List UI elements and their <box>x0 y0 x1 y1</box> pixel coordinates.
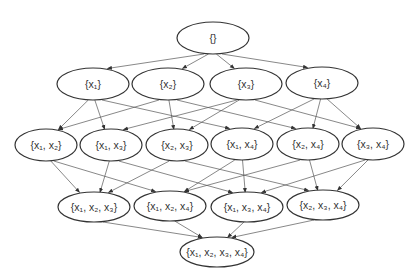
edge-234-to-1234 <box>232 220 314 238</box>
edge-1-to-14 <box>102 100 230 129</box>
edge-e-to-3 <box>216 54 234 69</box>
node-label: {x₂, x₄} <box>292 138 324 150</box>
node-label: {x₁, x₃, x₄} <box>224 201 271 213</box>
hasse-diagram: {}{x₁}{x₂}{x₃}{x₄}{x₁, x₂}{x₁, x₃}{x₂, x… <box>0 0 417 278</box>
node-set-2: {x₂} <box>132 68 204 100</box>
node-label: {x₃, x₄} <box>357 138 389 150</box>
node-label: {x₁, x₄} <box>226 138 258 150</box>
edge-1-to-13 <box>95 100 105 130</box>
edge-23-to-123 <box>108 161 169 193</box>
node-label: {x₁, x₂, x₃, x₄} <box>186 246 248 258</box>
node-set-12: {x₁, x₂} <box>15 129 77 161</box>
node-label: {x₁, x₂} <box>31 139 62 151</box>
node-set-14: {x₁, x₄} <box>211 128 273 160</box>
edge-13-to-123 <box>100 161 109 193</box>
node-label: {x₄} <box>314 77 331 89</box>
edge-14-to-124 <box>184 160 234 192</box>
node-set-123: {x₁, x₂, x₃} <box>58 192 130 222</box>
node-set-34: {x₃, x₄} <box>342 128 404 160</box>
edge-e-to-1 <box>107 54 204 69</box>
edge-4-to-24 <box>313 99 321 129</box>
node-label: {x₃} <box>238 78 255 90</box>
node-label: {x₁, x₂, x₃} <box>71 201 118 213</box>
edge-13-to-134 <box>119 161 233 193</box>
node-label: {x₂, x₃, x₄} <box>299 199 347 211</box>
node-set-234: {x₂, x₃, x₄} <box>287 190 359 220</box>
node-label: {} <box>209 32 217 44</box>
node-set-23: {x₂, x₃} <box>146 129 208 161</box>
node-set-134: {x₁, x₃, x₄} <box>211 192 283 222</box>
edge-e-to-2 <box>182 54 208 69</box>
edge-12-to-123 <box>51 161 80 193</box>
node-set-1: {x₁} <box>57 68 129 100</box>
node-label: {x₂} <box>160 78 177 90</box>
node-set-3: {x₃} <box>210 68 282 100</box>
node-label: {x₁} <box>85 78 101 90</box>
edge-e-to-4 <box>222 54 308 68</box>
node-set-124: {x₁, x₂, x₄} <box>134 191 206 221</box>
edge-14-to-134 <box>243 160 246 193</box>
node-empty-set: {} <box>177 22 249 54</box>
edge-34-to-234 <box>337 160 368 191</box>
edge-2-to-24 <box>177 100 296 129</box>
node-set-1234: {x₁, x₂, x₃, x₄} <box>180 237 254 267</box>
edge-34-to-134 <box>261 160 365 193</box>
node-set-4: {x₄} <box>286 67 358 99</box>
node-label: {x₂, x₃} <box>161 139 193 151</box>
edge-123-to-1234 <box>103 222 202 238</box>
node-label: {x₁, x₃} <box>95 139 127 151</box>
node-label: {x₁, x₂, x₄} <box>147 200 194 212</box>
node-set-13: {x₁, x₃} <box>80 129 142 161</box>
node-set-24: {x₂, x₄} <box>277 128 339 160</box>
nodes-layer: {}{x₁}{x₂}{x₃}{x₄}{x₁, x₂}{x₁, x₃}{x₂, x… <box>15 22 404 267</box>
edge-3-to-13 <box>123 100 237 130</box>
